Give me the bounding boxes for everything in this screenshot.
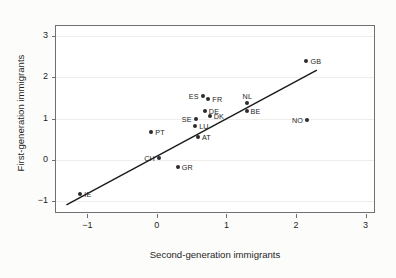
plot-area: GBESFRNLDEBEDKSENOLUPTATCHGRIE −10123−10… bbox=[55, 25, 375, 213]
y-tick-label: −1 bbox=[28, 195, 48, 205]
y-tick bbox=[52, 201, 56, 202]
fit-line bbox=[66, 70, 316, 205]
y-tick bbox=[52, 160, 56, 161]
x-tick-label: 1 bbox=[216, 220, 236, 230]
y-tick bbox=[52, 77, 56, 78]
y-tick bbox=[52, 36, 56, 37]
point-label-pt: PT bbox=[155, 127, 165, 136]
x-axis-label: Second-generation immigrants bbox=[55, 249, 375, 260]
data-point-at bbox=[196, 135, 200, 139]
data-point-nl bbox=[245, 101, 249, 105]
data-point-fr bbox=[206, 97, 210, 101]
data-point-lu bbox=[193, 124, 197, 128]
data-point-pt bbox=[149, 130, 153, 134]
x-tick-label: 3 bbox=[356, 220, 376, 230]
data-point-de bbox=[203, 109, 207, 113]
point-label-gr: GR bbox=[182, 162, 193, 171]
x-tick-label: 0 bbox=[147, 220, 167, 230]
point-label-nl: NL bbox=[243, 92, 253, 101]
x-tick bbox=[296, 214, 297, 218]
x-tick bbox=[157, 214, 158, 218]
data-point-ie bbox=[78, 192, 82, 196]
data-point-ch bbox=[157, 156, 161, 160]
data-point-be bbox=[245, 109, 249, 113]
y-axis-label: First-generation immigrants bbox=[14, 19, 28, 207]
data-point-gb bbox=[304, 59, 308, 63]
point-label-es: ES bbox=[189, 92, 199, 101]
point-label-gb: GB bbox=[310, 57, 321, 66]
x-tick bbox=[226, 214, 227, 218]
y-tick-label: 1 bbox=[28, 113, 48, 123]
point-label-ch: CH bbox=[144, 153, 155, 162]
y-tick bbox=[52, 119, 56, 120]
point-label-se: SE bbox=[182, 115, 192, 124]
point-label-no: NO bbox=[292, 116, 303, 125]
data-point-no bbox=[305, 118, 309, 122]
x-tick-label: −1 bbox=[77, 220, 97, 230]
point-label-at: AT bbox=[202, 133, 211, 142]
y-tick-label: 0 bbox=[28, 154, 48, 164]
y-tick-label: 2 bbox=[28, 71, 48, 81]
figure: GBESFRNLDEBEDKSENOLUPTATCHGRIE −10123−10… bbox=[0, 0, 396, 278]
data-point-es bbox=[201, 94, 205, 98]
data-point-gr bbox=[176, 165, 180, 169]
point-label-dk: DK bbox=[214, 111, 224, 120]
point-label-ie: IE bbox=[84, 190, 91, 199]
data-point-dk bbox=[208, 114, 212, 118]
point-label-lu: LU bbox=[199, 121, 209, 130]
x-tick bbox=[87, 214, 88, 218]
point-label-be: BE bbox=[251, 107, 261, 116]
point-label-fr: FR bbox=[212, 95, 222, 104]
x-tick bbox=[366, 214, 367, 218]
y-tick-label: 3 bbox=[28, 30, 48, 40]
data-point-se bbox=[194, 117, 198, 121]
x-tick-label: 2 bbox=[286, 220, 306, 230]
